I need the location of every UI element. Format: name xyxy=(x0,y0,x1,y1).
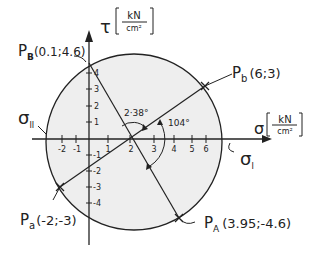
svg-text:kN: kN xyxy=(127,10,140,21)
x-tick-label: 4 xyxy=(171,145,176,154)
tau-axis-arrow-icon xyxy=(85,30,93,42)
y-tick-label: 1 xyxy=(94,118,99,127)
x-tick-label: 6 xyxy=(203,145,208,154)
angle-label-2x38: 2·38° xyxy=(124,108,149,118)
x-tick-label: -1 xyxy=(73,145,81,154)
tau-unit: kN cm² xyxy=(116,8,153,34)
mohr-circle-diagram: -2 -1 1 2 3 4 5 6 4 3 2 1 -1 -2 -3 -4 xyxy=(0,0,326,258)
sigma-2-label: σII xyxy=(18,107,34,130)
x-tick-label: 5 xyxy=(189,145,194,154)
y-tick-label: -3 xyxy=(93,183,101,192)
y-tick-label: 3 xyxy=(94,85,99,94)
x-tick-label: -2 xyxy=(58,145,66,154)
pA-label: PA(3.95;-4.6) xyxy=(204,214,291,234)
svg-text:cm²: cm² xyxy=(277,127,292,136)
x-tick-label: 3 xyxy=(151,145,156,154)
sigma-1-label: σI xyxy=(240,148,254,171)
sigma-unit: kN cm² xyxy=(267,113,302,136)
y-tick-label: -2 xyxy=(93,167,101,176)
pB-label: PB(0.1;4.6) xyxy=(18,42,86,62)
y-tick-label: -4 xyxy=(93,199,101,208)
tau-axis-label: τ xyxy=(100,16,111,37)
y-tick-label: 2 xyxy=(94,102,99,111)
angle-label-104: 104° xyxy=(168,118,190,128)
pb-label: Pb(6;3) xyxy=(232,64,280,84)
svg-text:cm²: cm² xyxy=(126,24,141,33)
svg-text:kN: kN xyxy=(278,114,291,125)
mohr-circle xyxy=(46,54,222,230)
sigma-axis-label: σ xyxy=(254,119,264,138)
pa-label: Pa(-2;-3) xyxy=(20,211,77,231)
x-tick-label: 2 xyxy=(128,145,133,154)
